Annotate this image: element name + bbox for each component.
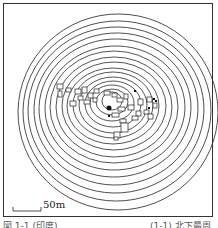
contour-map-figure: 50m 図 1-1 (印度) (1-1) 北下最周 [0, 0, 218, 228]
figure-caption-right: (1-1) 北下最周 [150, 219, 211, 228]
scale-bar [13, 207, 41, 211]
summit-marker-icon [107, 106, 112, 111]
figure-caption-left: 図 1-1 (印度) [3, 219, 57, 228]
scale-bar-label: 50m [43, 199, 65, 210]
contour-lines [10, 6, 218, 219]
contour-map [0, 0, 218, 228]
